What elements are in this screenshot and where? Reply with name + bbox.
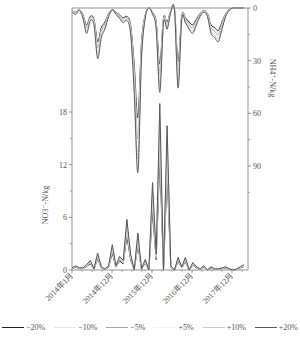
right-tick-label: 60: [253, 109, 261, 118]
nh4-line: [72, 5, 244, 152]
chart-svg: 061218 0306090 2014年1月2014年12月2015年12月20…: [0, 0, 300, 344]
left-tick-label: 6: [63, 213, 67, 222]
right-tick-label: 30: [253, 57, 261, 66]
left-axis-label: NO3⁻-N/kg: [41, 186, 50, 224]
legend-label: +20%: [279, 323, 298, 332]
legend-swatch: [154, 327, 176, 328]
nh4-line: [72, 4, 244, 172]
x-tick-label: 2017年12月: [200, 270, 235, 305]
legend-swatch: [203, 327, 225, 328]
legend-label: −5%: [130, 323, 145, 332]
left-tick-label: 18: [59, 108, 67, 117]
legend-item: −5%: [106, 323, 145, 332]
legend-swatch: [2, 327, 24, 328]
x-axis-ticks: 2014年1月2014年12月2015年12月2016年12月2017年12月: [43, 270, 242, 306]
legend: −20%−10%−5%+5%+10%+20%: [2, 320, 298, 334]
legend-label: −10%: [78, 323, 97, 332]
legend-item: +5%: [154, 323, 193, 332]
legend-item: −10%: [54, 323, 97, 332]
left-axis-ticks: 061218: [59, 108, 72, 275]
legend-item: −20%: [2, 323, 45, 332]
nh4-line: [72, 5, 244, 159]
x-tick-label: 2014年1月: [43, 270, 76, 303]
legend-swatch: [106, 327, 128, 328]
right-axis-ticks: 0306090: [248, 4, 261, 192]
legend-label: −20%: [26, 323, 45, 332]
legend-label: +5%: [178, 323, 193, 332]
x-tick-label: 2016年12月: [160, 270, 195, 305]
no3-line: [72, 104, 244, 270]
nh4-series-lines: [72, 4, 244, 172]
right-tick-label: 0: [253, 4, 257, 13]
x-tick-label: 2014年12月: [80, 270, 115, 305]
legend-item: +20%: [255, 323, 298, 332]
right-tick-label: 90: [253, 162, 261, 171]
x-tick-label: 2015年12月: [120, 270, 155, 305]
legend-item: +10%: [203, 323, 246, 332]
legend-swatch: [255, 327, 277, 328]
legend-label: +10%: [227, 323, 246, 332]
left-tick-label: 12: [59, 161, 67, 170]
legend-swatch: [54, 327, 76, 328]
no3-series-lines: [72, 104, 244, 270]
right-axis-label: NH4⁺-N/kg: [268, 59, 277, 97]
